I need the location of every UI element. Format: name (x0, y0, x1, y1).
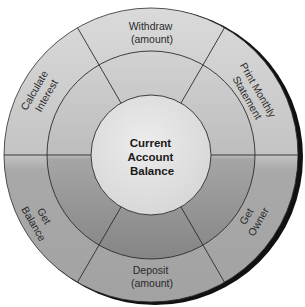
segment-label-deposit[interactable]: Deposit (amount) (131, 264, 173, 289)
center-label: Current Account Balance (127, 137, 176, 177)
object-wheel-diagram: Current Account Balance Withdraw (amount… (0, 0, 305, 307)
segment-label-withdraw[interactable]: Withdraw (amount) (129, 20, 176, 45)
